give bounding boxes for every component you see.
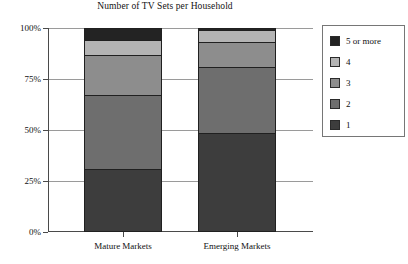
bar-segment-2[interactable] — [84, 95, 162, 168]
y-tick-mark-50 — [43, 130, 48, 131]
y-tick-mark-75 — [43, 79, 48, 80]
bar-segment-3[interactable] — [84, 55, 162, 96]
y-tick-mark-0 — [43, 232, 48, 233]
legend-swatch-icon-1 — [330, 120, 340, 130]
legend-label-4: 4 — [346, 57, 351, 67]
y-tick-mark-100 — [43, 28, 48, 29]
legend-swatch-icon-4 — [330, 57, 340, 67]
x-tick-mark-emerging — [237, 232, 238, 237]
x-tick-label-mature: Mature Markets — [94, 241, 152, 251]
chart-legend: 5 or more 4 3 2 1 — [322, 25, 405, 137]
legend-label-1: 1 — [346, 120, 351, 130]
y-tick-label-100: 100% — [20, 23, 41, 33]
x-tick-label-emerging: Emerging Markets — [203, 241, 270, 251]
bar-segment-1[interactable] — [84, 169, 162, 232]
bar-segment-4[interactable] — [198, 30, 276, 42]
legend-swatch-icon-3 — [330, 78, 340, 88]
chart-title: Number of TV Sets per Household — [0, 1, 330, 11]
bar-segment-4[interactable] — [84, 40, 162, 54]
y-axis-line — [48, 28, 49, 232]
legend-item-4[interactable]: 4 — [330, 56, 351, 68]
legend-label-2: 2 — [346, 99, 351, 109]
bar-segment-5-or-more[interactable] — [84, 28, 162, 40]
legend-label-5-or-more: 5 or more — [346, 36, 381, 46]
legend-item-3[interactable]: 3 — [330, 77, 351, 89]
legend-item-5-or-more[interactable]: 5 or more — [330, 35, 381, 47]
y-tick-label-25: 25% — [25, 176, 42, 186]
legend-item-1[interactable]: 1 — [330, 119, 351, 131]
legend-swatch-icon-2 — [330, 99, 340, 109]
y-tick-label-75: 75% — [25, 74, 42, 84]
plot-area: 100% 75% 50% 25% 0% Mature Markets Emerg… — [48, 28, 313, 232]
legend-label-3: 3 — [346, 78, 351, 88]
bar-segment-2[interactable] — [198, 67, 276, 133]
bar-segment-1[interactable] — [198, 133, 276, 232]
y-tick-label-50: 50% — [25, 125, 42, 135]
y-tick-label-0: 0% — [29, 227, 41, 237]
bar-segment-5-or-more[interactable] — [198, 28, 276, 30]
bar-segment-3[interactable] — [198, 42, 276, 66]
legend-swatch-icon-5-or-more — [330, 36, 340, 46]
chart-container: Number of TV Sets per Household 100% 75%… — [0, 0, 408, 264]
x-tick-mark-mature — [123, 232, 124, 237]
legend-item-2[interactable]: 2 — [330, 98, 351, 110]
y-tick-mark-25 — [43, 181, 48, 182]
